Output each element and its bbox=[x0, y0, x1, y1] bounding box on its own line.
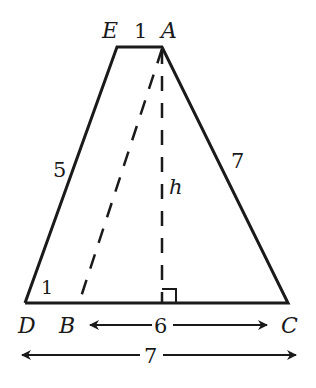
vertex-label-b: B bbox=[58, 313, 75, 338]
vertex-label-a: A bbox=[159, 18, 177, 43]
vertex-label-e: E bbox=[101, 18, 118, 43]
label-ea-length: 1 bbox=[134, 19, 147, 43]
label-bc-length: 6 bbox=[154, 314, 167, 338]
diagram-canvas: E A D B C 1 5 7 h 1 6 7 bbox=[0, 0, 316, 388]
label-height-h: h bbox=[169, 175, 183, 199]
label-dc-length: 7 bbox=[144, 344, 157, 368]
vertex-label-d: D bbox=[17, 313, 36, 338]
vertex-label-c: C bbox=[281, 313, 298, 338]
label-corner-d: 1 bbox=[41, 276, 53, 298]
right-angle-marker bbox=[162, 289, 176, 303]
label-ac-length: 7 bbox=[231, 149, 244, 173]
label-ed-length: 5 bbox=[53, 158, 66, 182]
dashed-line-a-b bbox=[79, 49, 162, 303]
trapezoid-diagram: E A D B C 1 5 7 h 1 6 7 bbox=[0, 0, 316, 388]
